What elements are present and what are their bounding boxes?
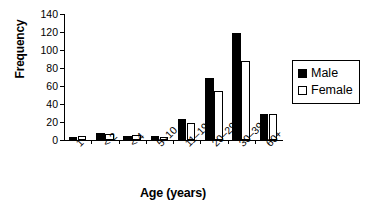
- bar-group: [91, 14, 118, 140]
- bar-group: [146, 14, 173, 140]
- chart-legend: Male Female: [292, 60, 360, 104]
- bar-group: [64, 14, 91, 140]
- legend-swatch-male-icon: [298, 69, 307, 78]
- legend-label-male: Male: [311, 67, 338, 80]
- x-axis-title: Age (years): [64, 186, 282, 200]
- y-axis-title: Frequency: [13, 0, 27, 109]
- legend-item-male: Male: [298, 65, 353, 82]
- y-tick-label: 120: [40, 27, 58, 38]
- legend-swatch-female-icon: [298, 86, 307, 95]
- plot-area: 020406080100120140: [64, 14, 282, 140]
- x-tick-label-container: 1< 2< 45–1011–1920–2930–3960+: [64, 141, 282, 183]
- bar-group: [200, 14, 227, 140]
- y-tick-label: 20: [46, 117, 58, 128]
- y-tick-label: 60: [46, 81, 58, 92]
- bar-group: [119, 14, 146, 140]
- y-tick-label: 100: [40, 45, 58, 56]
- bar-chart-figure: Frequency 020406080100120140 1< 2< 45–10…: [0, 0, 379, 212]
- y-tick-label: 0: [52, 135, 58, 146]
- legend-item-female: Female: [298, 82, 353, 99]
- y-tick-label: 40: [46, 99, 58, 110]
- legend-label-female: Female: [311, 84, 353, 97]
- bar-group: [173, 14, 200, 140]
- y-tick-label: 140: [40, 9, 58, 20]
- y-tick-label: 80: [46, 63, 58, 74]
